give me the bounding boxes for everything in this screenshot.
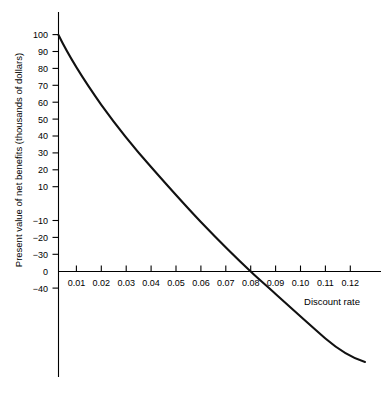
- x-label-0.03: 0.03: [117, 278, 135, 288]
- y-label-neg30: −30: [33, 250, 48, 260]
- x-label-0.06: 0.06: [192, 278, 210, 288]
- y-label-10: 10: [38, 182, 48, 192]
- chart-container: 100 90 80 70 60 50 40 30 20 10 0 −10 −20…: [0, 0, 390, 419]
- x-label-0.08: 0.08: [242, 278, 260, 288]
- x-label-0.09: 0.09: [267, 278, 285, 288]
- y-label-100: 100: [33, 30, 48, 40]
- x-axis-title: Discount rate: [304, 296, 360, 307]
- y-label-0: 0: [43, 267, 48, 277]
- y-label-30: 30: [38, 148, 48, 158]
- y-label-90: 90: [38, 47, 48, 57]
- y-label-80: 80: [38, 64, 48, 74]
- y-label-neg40: −40: [33, 284, 48, 294]
- y-axis-ticks: [53, 35, 59, 289]
- y-label-neg20: −20: [33, 233, 48, 243]
- npv-discount-rate-chart: 100 90 80 70 60 50 40 30 20 10 0 −10 −20…: [0, 0, 390, 419]
- npv-curve: [59, 35, 366, 362]
- x-label-0.01: 0.01: [68, 278, 86, 288]
- y-label-60: 60: [38, 98, 48, 108]
- x-label-0.11: 0.11: [317, 278, 334, 288]
- x-label-0.05: 0.05: [167, 278, 185, 288]
- y-axis-title: Present value of net benefits (thousands…: [13, 53, 24, 267]
- x-label-0.02: 0.02: [93, 278, 111, 288]
- x-label-0.12: 0.12: [342, 278, 360, 288]
- y-label-70: 70: [38, 81, 48, 91]
- y-label-50: 50: [38, 115, 48, 125]
- y-label-neg10: −10: [33, 216, 48, 226]
- x-axis-ticks: [76, 266, 350, 272]
- x-axis-tick-labels: 0.01 0.02 0.03 0.04 0.05 0.06 0.07 0.08 …: [68, 278, 359, 288]
- x-label-0.04: 0.04: [142, 278, 160, 288]
- x-label-0.10: 0.10: [292, 278, 310, 288]
- y-axis-tick-labels: 100 90 80 70 60 50 40 30 20 10 0 −10 −20…: [33, 30, 48, 294]
- y-label-40: 40: [38, 131, 48, 141]
- y-label-20: 20: [38, 165, 48, 175]
- x-label-0.07: 0.07: [217, 278, 235, 288]
